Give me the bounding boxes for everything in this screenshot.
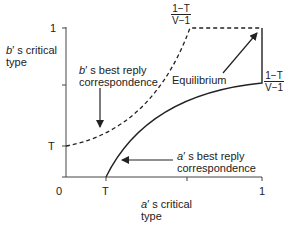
y-axis-label: b′ s critical type: [6, 44, 57, 68]
y-tick-label-T: T: [48, 140, 55, 152]
x-tick-label-1: 1: [259, 185, 265, 197]
x-tick-label-0: 0: [56, 185, 62, 197]
b-best-reply-label: b′ s best reply correspondence: [79, 64, 158, 88]
right-fraction-label: 1−T V−1: [264, 70, 284, 93]
diagram-canvas: [0, 0, 287, 225]
top-fraction-label: 1−T V−1: [171, 3, 191, 26]
a-best-reply-label: a′ s best reply correspondence: [177, 150, 256, 174]
x-tick-label-T: T: [102, 185, 109, 197]
equilibrium-arrow: [223, 33, 257, 73]
y-tick-label-1: 1: [50, 22, 56, 34]
equilibrium-label: Equilibrium: [172, 74, 226, 86]
x-axis-label: a′ s critical type: [141, 198, 192, 222]
